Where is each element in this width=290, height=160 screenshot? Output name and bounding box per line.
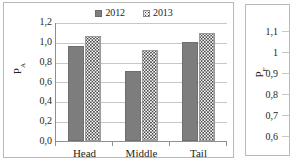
plot-area-second: PF 1,1 1 0,9 0,8 0,7 0,6 [246, 5, 289, 155]
y-tick-label: 0,6 [26, 77, 52, 87]
bar-2013-middle [142, 50, 158, 142]
legend-label-2013: 2013 [153, 8, 173, 18]
bar-group-middle [113, 23, 170, 141]
chart-legend: 2012 2013 [64, 6, 204, 20]
y-tick-label-second: 1 [254, 48, 278, 58]
gridline-second [282, 73, 289, 74]
gridline-second [282, 52, 289, 53]
x-category-label: Head [56, 147, 113, 160]
y-tick-label-second: 1,1 [254, 27, 278, 37]
y-axis-title-subscript: A [19, 63, 27, 68]
y-tick-label: 0,4 [26, 96, 52, 106]
bar-2012-head [68, 46, 84, 141]
x-tick [55, 142, 56, 146]
legend-swatch-2012-icon [95, 10, 102, 17]
figure-container: 2012 2013 0,0 0,2 0,4 0,6 0,8 1,0 1,2 PA [0, 0, 290, 160]
chart-panel-main: 2012 2013 0,0 0,2 0,4 0,6 0,8 1,0 1,2 PA [3, 2, 234, 158]
legend-item-2013: 2013 [143, 8, 173, 18]
x-axis-ticks [55, 142, 227, 146]
y-tick-label: 0,0 [26, 136, 52, 146]
gridline-second [282, 31, 289, 32]
bar-group-head [56, 23, 113, 141]
y-axis-title: PA [11, 52, 26, 86]
chart-panel-second: PF 1,1 1 0,9 0,8 0,7 0,6 [245, 4, 290, 156]
y-axis-title-text: P [11, 68, 23, 74]
bar-series-container [56, 23, 227, 141]
gridline-second [282, 94, 289, 95]
bar-2012-tail [182, 42, 198, 141]
x-category-label: Middle [113, 147, 170, 160]
y-tick-label: 1,0 [26, 37, 52, 47]
x-axis-category-labels: Head Middle Tail [56, 147, 227, 160]
y-tick-label: 0,8 [26, 57, 52, 67]
legend-label-2012: 2012 [105, 8, 125, 18]
y-tick-label-second: 0,7 [254, 111, 278, 121]
x-tick [112, 142, 113, 146]
bar-2013-head [85, 36, 101, 141]
gridline-second [282, 136, 289, 137]
x-tick [169, 142, 170, 146]
x-category-label: Tail [170, 147, 227, 160]
y-tick-label-second: 0,6 [254, 132, 278, 142]
bar-group-tail [170, 23, 227, 141]
legend-item-2012: 2012 [95, 8, 125, 18]
legend-swatch-2013-icon [143, 10, 150, 17]
bar-2013-tail [199, 33, 215, 141]
y-tick-label-second: 0,8 [254, 90, 278, 100]
x-tick [226, 142, 227, 146]
bar-2012-middle [125, 71, 141, 141]
y-tick-label-second: 0,9 [254, 69, 278, 79]
y-tick-label: 1,2 [26, 17, 52, 27]
y-tick-label: 0,2 [26, 116, 52, 126]
gridline-second [282, 115, 289, 116]
